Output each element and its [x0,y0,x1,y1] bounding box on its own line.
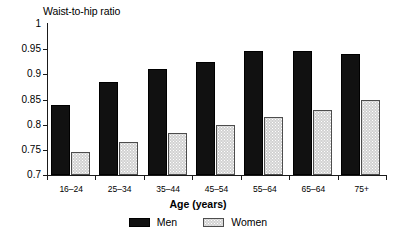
y-axis-tick-label: 0.75 [0,145,41,155]
bar-women-0 [71,152,90,175]
bar-women-5 [313,110,332,175]
legend-entry-men: Men [129,217,177,228]
legend-label-women: Women [231,217,267,228]
bar-women-4 [264,117,283,175]
waist-to-hip-ratio-bar-chart: Waist-to-hip ratio 0.70.750.80.850.90.95… [0,0,396,243]
x-axis-tick-label: 25–34 [108,184,132,194]
x-axis-tick [144,176,145,180]
y-axis-tick-label: 0.85 [0,95,41,105]
x-axis-tick [192,176,193,180]
x-axis-title: Age (years) [0,198,396,210]
legend-swatch-men [129,218,150,227]
bar-women-1 [119,142,138,175]
x-axis-tick [338,176,339,180]
x-axis-tick [95,176,96,180]
bar-men-3 [196,62,215,175]
x-axis-tick-label: 55–64 [253,184,277,194]
plot-area [47,24,386,175]
bar-women-6 [361,100,380,176]
bar-men-6 [341,54,360,175]
bar-men-0 [51,105,70,175]
bar-men-4 [244,51,263,175]
x-axis-tick [289,176,290,180]
y-axis-tick [43,150,48,151]
x-axis-line [47,175,387,176]
x-axis-tick [386,176,387,180]
y-axis-tick-label: 1 [0,19,41,29]
y-axis-tick-label: 0.7 [0,170,41,180]
y-axis-tick [43,49,48,50]
x-axis-tick-label: 35–44 [156,184,180,194]
x-axis-tick-label: 16–24 [59,184,83,194]
x-axis-tick [241,176,242,180]
y-axis-tick-label: 0.95 [0,44,41,54]
x-axis-tick-label: 65–64 [302,184,326,194]
x-axis-tick-label: 45–54 [205,184,229,194]
bar-men-2 [148,69,167,175]
y-axis-tick [43,100,48,101]
y-axis-tick [43,74,48,75]
y-axis-tick-label: 0.8 [0,120,41,130]
chart-legend: MenWomen [0,217,396,228]
bar-women-2 [168,133,187,175]
bar-men-5 [293,51,312,175]
y-axis-tick [43,125,48,126]
x-axis-tick [47,176,48,180]
legend-label-men: Men [157,217,177,228]
legend-entry-women: Women [203,217,267,228]
chart-title: Waist-to-hip ratio [43,5,120,18]
bar-men-1 [99,82,118,175]
x-axis-tick-label: 75+ [355,184,369,194]
bar-women-3 [216,125,235,175]
legend-swatch-women [203,218,224,227]
y-axis-tick-label: 0.9 [0,69,41,79]
